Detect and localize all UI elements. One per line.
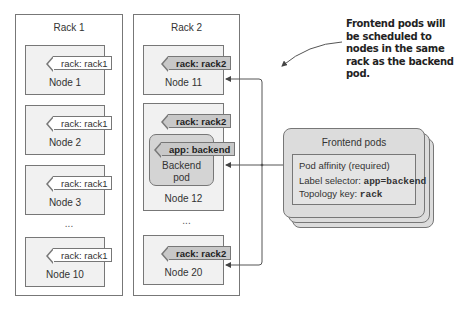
label-selector: Label selector: app=backend [299, 175, 426, 187]
topology-key-value: rack [360, 189, 383, 200]
label-selector-key: Label selector: [299, 175, 363, 186]
pod-affinity-box: Pod affinity (required) Label selector: … [292, 154, 416, 205]
topology-key-label: Topology key: [299, 188, 360, 199]
annotation-text: Frontend pods will be scheduled to nodes… [346, 18, 457, 81]
topology-key: Topology key: rack [299, 188, 383, 200]
frontend-pods-title: Frontend pods [284, 137, 424, 148]
pod-affinity-title: Pod affinity (required) [299, 160, 390, 171]
label-selector-value: app=backend [363, 176, 426, 187]
frontend-pod: Frontend pods Pod affinity (required) La… [283, 128, 425, 218]
